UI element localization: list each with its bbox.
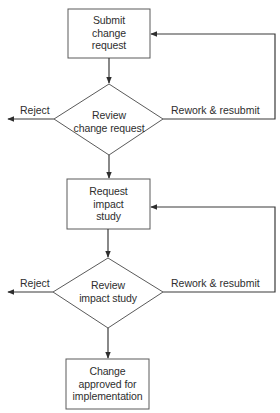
review-impact-study-label: Review impact study: [58, 279, 158, 304]
label-line: Review: [59, 109, 159, 122]
reject-label-2: Reject: [20, 277, 50, 289]
label-line: study: [67, 210, 150, 223]
rework-resubmit-label-2: Rework & resubmit: [171, 277, 260, 289]
label-line: implementation: [66, 390, 149, 403]
label-line: change: [68, 27, 150, 40]
label-line: request: [68, 39, 150, 52]
label-line: Submit: [68, 14, 150, 27]
label-line: Review: [58, 279, 158, 292]
submit-change-request-label: Submit change request: [68, 14, 150, 52]
label-line: Change: [66, 365, 149, 378]
review-change-request-label: Review change request: [59, 109, 159, 134]
label-line: change request: [59, 122, 159, 135]
rework-resubmit-label-1: Rework & resubmit: [171, 104, 260, 116]
change-approved-label: Change approved for implementation: [66, 365, 149, 403]
label-line: approved for: [66, 378, 149, 391]
label-line: Request: [67, 185, 150, 198]
label-line: impact: [67, 198, 150, 211]
label-line: impact study: [58, 292, 158, 305]
reject-label-1: Reject: [20, 104, 50, 116]
request-impact-study-label: Request impact study: [67, 185, 150, 223]
